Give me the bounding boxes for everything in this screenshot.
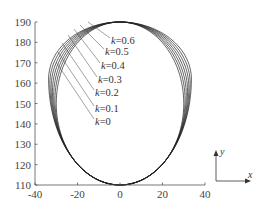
- indicator-y-label: y: [219, 146, 225, 157]
- y-tick-label: 120: [15, 159, 32, 171]
- k-label-0: k=0: [95, 116, 111, 127]
- x-tick-label: 20: [157, 188, 169, 200]
- k-label-0.5: k=0.5: [105, 46, 129, 57]
- x-tick-label: 0: [117, 188, 123, 200]
- leader-line: [68, 35, 97, 77]
- y-tick-label: 190: [15, 16, 32, 28]
- leader-line: [56, 62, 94, 119]
- y-tick-label: 160: [15, 77, 32, 89]
- y-tick-label: 180: [15, 36, 32, 48]
- x-tick-labels: -40 -20 0 20 40: [28, 188, 211, 200]
- k-label-0.4: k=0.4: [101, 60, 125, 71]
- k-label-0.2: k=0.2: [95, 87, 119, 98]
- x-tick-label: -20: [70, 188, 85, 200]
- k-label-0.1: k=0.1: [95, 103, 119, 114]
- leader-line: [62, 43, 94, 90]
- indicator-x-label: x: [247, 169, 253, 180]
- x-tick-label: 40: [200, 188, 212, 200]
- y-tick-label: 140: [15, 118, 32, 130]
- k-label-0.3: k=0.3: [98, 74, 122, 85]
- y-tick-label: 130: [15, 138, 32, 150]
- y-tick-labels: 190 180 170 160 150 140 130 120 110: [15, 16, 32, 191]
- egg-curve-chart: 190 180 170 160 150 140 130 120 110 -40 …: [0, 0, 263, 211]
- x-tick-label: -40: [28, 188, 43, 200]
- leader-line: [58, 52, 94, 106]
- y-tick-label: 150: [15, 98, 32, 110]
- k-labels: k=0.6 k=0.5 k=0.4 k=0.3 k=0.2 k=0.1 k=0: [95, 35, 135, 127]
- k-label-0.6: k=0.6: [111, 35, 135, 46]
- arrow-up-icon: [214, 150, 219, 156]
- y-tick-label: 170: [15, 57, 32, 69]
